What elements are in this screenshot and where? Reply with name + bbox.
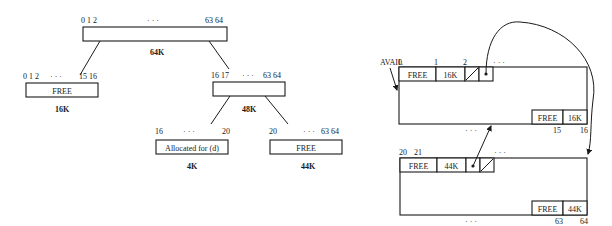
alloc-size: 4K bbox=[187, 162, 198, 171]
alloc-block-content: Allocated for (d) bbox=[165, 144, 219, 153]
block2-dots-bottom: · · · bbox=[465, 217, 477, 226]
right-index-right: 63 64 bbox=[263, 71, 281, 80]
tree-allocated-node: 16 · · · 20 Allocated for (d) 4K bbox=[155, 127, 230, 171]
root-index-dots: · · · bbox=[147, 16, 159, 25]
block1-tag: FREE bbox=[408, 71, 428, 80]
block2-index-21: 21 bbox=[414, 148, 422, 157]
block1-index-2: 2 bbox=[463, 58, 467, 67]
free-block-16k: 0 1 2 · · · FREE 16K FREE 16K 15 16 · · … bbox=[398, 58, 588, 135]
avail-pointer-arrow bbox=[390, 68, 397, 90]
edge-root-right bbox=[209, 41, 229, 69]
root-block bbox=[83, 27, 227, 41]
root-size: 64K bbox=[150, 48, 165, 57]
block2-size: 44K bbox=[445, 162, 459, 171]
block2-tag: FREE bbox=[409, 162, 429, 171]
block1-index-0: 0 bbox=[398, 58, 402, 67]
block2-tail-size: 44K bbox=[568, 205, 582, 214]
free44-index-right: 63 64 bbox=[321, 127, 339, 136]
tree-free44-node: 20 · · · 63 64 FREE 44K bbox=[269, 127, 342, 171]
block1-dots-top: · · · bbox=[493, 58, 505, 67]
free-block-44k: 20 21 · · · FREE 44K FREE 44K 63 64 · · … bbox=[399, 148, 588, 226]
free44-block-content: FREE bbox=[296, 144, 316, 153]
free44-index-left: 20 bbox=[269, 127, 277, 136]
block1-tail-tag: FREE bbox=[538, 114, 558, 123]
left-index-dots: · · · bbox=[50, 72, 62, 81]
left-index-right: 15 16 bbox=[79, 72, 97, 81]
tree-left-node: 0 1 2 · · · 15 16 FREE 16K bbox=[23, 72, 98, 114]
edge-right-right bbox=[265, 96, 288, 124]
block1-size: 16K bbox=[444, 71, 458, 80]
left-size: 16K bbox=[55, 105, 70, 114]
left-index-left: 0 1 2 bbox=[23, 72, 39, 81]
block2-index-20: 20 bbox=[399, 148, 407, 157]
block1-end-right: 16 bbox=[580, 126, 588, 135]
block1-tail-size: 16K bbox=[568, 114, 582, 123]
block1-end-left: 15 bbox=[553, 126, 561, 135]
alloc-index-dots: · · · bbox=[183, 127, 195, 136]
left-block-content: FREE bbox=[52, 87, 72, 96]
block2-dots-top: · · · bbox=[494, 148, 506, 157]
right-size: 48K bbox=[242, 105, 257, 114]
alloc-index-right: 20 bbox=[222, 127, 230, 136]
edge-right-left bbox=[211, 96, 230, 124]
root-index-right: 63 64 bbox=[205, 16, 223, 25]
free44-size: 44K bbox=[301, 162, 316, 171]
buddy-system-diagram: 0 1 2 · · · 63 64 64K 0 1 2 · · · 15 16 … bbox=[0, 0, 612, 226]
tree-root-node: 0 1 2 · · · 63 64 64K bbox=[81, 16, 227, 57]
edge-root-left bbox=[80, 41, 100, 75]
block2-end-left: 63 bbox=[555, 217, 563, 226]
block1-index-1: 1 bbox=[434, 58, 438, 67]
right-index-dots: · · · bbox=[242, 71, 254, 80]
right-index-left: 16 17 bbox=[211, 71, 229, 80]
block2-tail-tag: FREE bbox=[538, 205, 558, 214]
free44-index-dots: · · · bbox=[303, 127, 315, 136]
right-block bbox=[213, 82, 285, 96]
block1-dots-bottom: · · · bbox=[465, 126, 477, 135]
alloc-index-left: 16 bbox=[155, 127, 163, 136]
block2-end-right: 64 bbox=[580, 217, 588, 226]
root-index-left: 0 1 2 bbox=[81, 16, 97, 25]
